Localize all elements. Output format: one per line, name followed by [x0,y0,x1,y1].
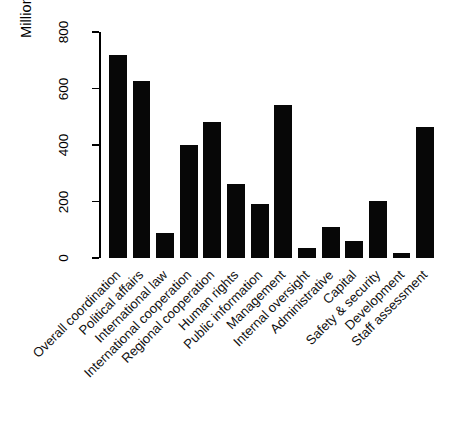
bar [133,81,151,258]
bar [298,248,316,258]
bar [251,204,269,258]
bar [345,241,363,258]
plot-area [0,0,449,258]
bar [416,127,434,258]
bar [322,227,340,258]
bar [369,201,387,258]
bar-chart: Millions of US Dollars 0200400600800 Ove… [0,0,449,422]
bar [109,55,127,258]
bar [203,122,221,258]
bar [180,145,198,258]
bar [156,233,174,258]
bar [393,253,411,258]
bar [274,105,292,258]
bar [227,184,245,258]
